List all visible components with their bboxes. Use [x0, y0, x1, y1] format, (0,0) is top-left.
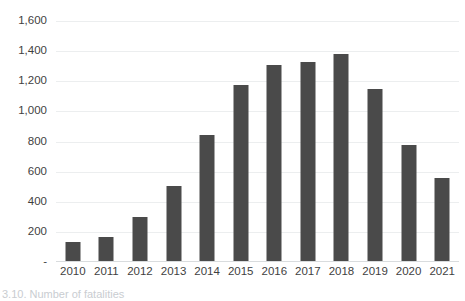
bar-slot: [224, 21, 258, 262]
y-axis: -2004006008001,0001,2001,4001,600: [0, 0, 56, 301]
bar-slot: [425, 21, 459, 262]
bar-slot: [90, 21, 124, 262]
bar-slot: [190, 21, 224, 262]
x-axis: 2010201120122013201420152016201720182019…: [56, 264, 459, 282]
y-axis-tick-label: 800: [0, 136, 47, 148]
bar[interactable]: [200, 135, 215, 262]
x-axis-tick-label: 2014: [190, 264, 224, 278]
x-axis-tick-label: 2012: [123, 264, 157, 278]
bar[interactable]: [166, 186, 181, 262]
bar-slot: [291, 21, 325, 262]
bar-slot: [56, 21, 90, 262]
bar[interactable]: [300, 62, 315, 262]
x-axis-tick-label: 2017: [291, 264, 325, 278]
bar-slot: [392, 21, 426, 262]
y-axis-tick-label: 400: [0, 196, 47, 208]
bar[interactable]: [368, 89, 383, 262]
y-axis-tick-label: 600: [0, 166, 47, 178]
y-axis-tick-label: 200: [0, 226, 47, 238]
x-axis-tick-label: 2013: [157, 264, 191, 278]
bar-slot: [157, 21, 191, 262]
bar-slot: [258, 21, 292, 262]
x-axis-tick-label: 2018: [325, 264, 359, 278]
bar[interactable]: [99, 237, 114, 262]
y-axis-tick-label: 1,600: [0, 15, 47, 27]
bar[interactable]: [401, 145, 416, 262]
x-axis-tick-label: 2015: [224, 264, 258, 278]
bar[interactable]: [132, 217, 147, 262]
bar[interactable]: [65, 242, 80, 262]
y-axis-tick-label: 1,000: [0, 105, 47, 117]
x-axis-tick-label: 2011: [90, 264, 124, 278]
plot-area: [56, 21, 459, 262]
bar-slot: [325, 21, 359, 262]
x-axis-line: [56, 261, 459, 262]
bar-slot: [358, 21, 392, 262]
bar[interactable]: [334, 54, 349, 262]
bar[interactable]: [435, 178, 450, 262]
x-axis-tick-label: 2020: [392, 264, 426, 278]
bar-chart-figure: -2004006008001,0001,2001,4001,600 201020…: [0, 0, 465, 301]
bar[interactable]: [233, 85, 248, 262]
y-axis-tick-label: 1,200: [0, 75, 47, 87]
x-axis-tick-label: 2010: [56, 264, 90, 278]
bars-layer: [56, 21, 459, 262]
bar[interactable]: [267, 65, 282, 262]
x-axis-tick-label: 2019: [358, 264, 392, 278]
figure-caption: 3.10. Number of fatalities: [2, 288, 465, 301]
y-axis-tick-label: 1,400: [0, 45, 47, 57]
x-axis-tick-label: 2016: [258, 264, 292, 278]
y-axis-tick-label: -: [0, 256, 47, 268]
bar-slot: [123, 21, 157, 262]
x-axis-tick-label: 2021: [425, 264, 459, 278]
